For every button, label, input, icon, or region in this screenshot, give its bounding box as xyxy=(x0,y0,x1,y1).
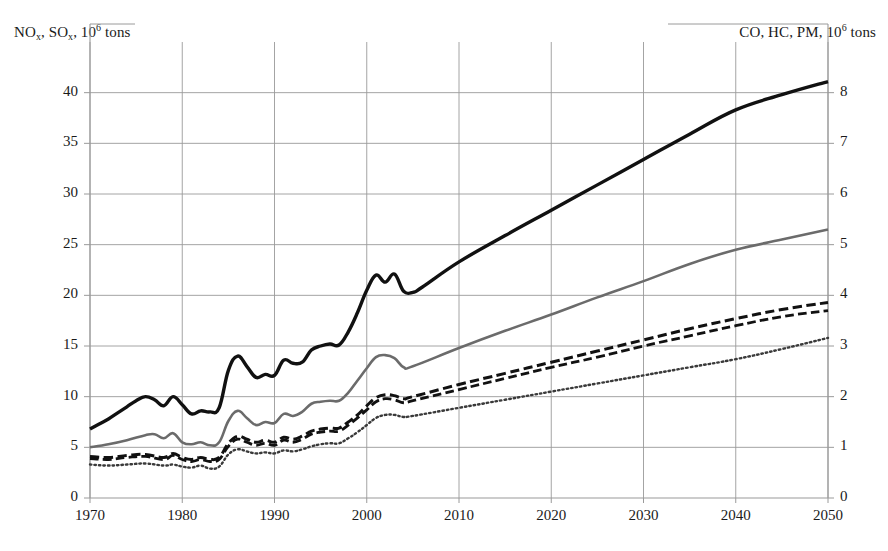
y-axis-left-tick-25: 25 xyxy=(44,235,78,252)
y-axis-left-tick-20: 20 xyxy=(44,285,78,302)
x-axis-tick-2040: 2040 xyxy=(706,507,766,524)
y-axis-left-tick-15: 15 xyxy=(44,336,78,353)
grid-layer xyxy=(90,42,828,498)
y-axis-left-tick-5: 5 xyxy=(44,437,78,454)
y-axis-right-tick-6: 6 xyxy=(840,184,874,201)
x-axis-tick-1980: 1980 xyxy=(152,507,212,524)
x-axis-tick-2010: 2010 xyxy=(429,507,489,524)
chart-root: NOx, SOx, 106 tons CO, HC, PM, 106 tons … xyxy=(0,0,888,551)
x-axis-tick-2000: 2000 xyxy=(337,507,397,524)
y-axis-left-tick-35: 35 xyxy=(44,133,78,150)
y-axis-right-tick-5: 5 xyxy=(840,235,874,252)
y-axis-right-tick-8: 8 xyxy=(840,83,874,100)
x-axis-tick-1990: 1990 xyxy=(245,507,305,524)
y-axis-right-tick-3: 3 xyxy=(840,336,874,353)
y-axis-left-tick-0: 0 xyxy=(44,488,78,505)
x-axis-tick-1970: 1970 xyxy=(60,507,120,524)
y-axis-right-tick-1: 1 xyxy=(840,437,874,454)
y-axis-right-tick-7: 7 xyxy=(840,133,874,150)
plot-canvas xyxy=(0,0,888,551)
y-axis-left-tick-40: 40 xyxy=(44,83,78,100)
y-axis-right-tick-0: 0 xyxy=(840,488,874,505)
y-axis-right-tick-4: 4 xyxy=(840,285,874,302)
y-axis-right-tick-2: 2 xyxy=(840,387,874,404)
x-axis-tick-2030: 2030 xyxy=(614,507,674,524)
x-axis-tick-2020: 2020 xyxy=(521,507,581,524)
y-axis-left-tick-30: 30 xyxy=(44,184,78,201)
x-axis-tick-2050: 2050 xyxy=(798,507,858,524)
y-axis-left-tick-10: 10 xyxy=(44,387,78,404)
